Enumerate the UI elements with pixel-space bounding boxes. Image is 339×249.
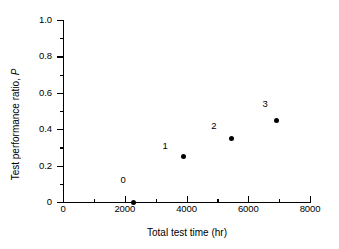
x-axis-title: Total test time (hr) (63, 227, 311, 238)
y-tick-minor (60, 38, 64, 39)
x-tick-label: 0 (60, 204, 65, 214)
y-tick-minor (60, 184, 64, 185)
y-tick-minor (60, 75, 64, 76)
data-point-label: 2 (211, 121, 216, 131)
y-tick-major (57, 93, 63, 94)
x-tick-minor (94, 199, 95, 203)
data-point (181, 154, 186, 159)
y-tick-label: 1.0 (0, 15, 52, 25)
y-tick-major (57, 166, 63, 167)
y-axis-line (63, 20, 64, 203)
data-point-label: 3 (262, 99, 267, 109)
y-tick-label: 0.2 (0, 161, 52, 171)
x-tick-minor (279, 199, 280, 203)
y-tick-label: 0 (0, 197, 52, 207)
x-tick-major (248, 196, 249, 202)
x-tick-major (125, 196, 126, 202)
y-tick-major (57, 202, 63, 203)
data-point (274, 118, 279, 123)
y-tick-label: 0.6 (0, 88, 52, 98)
y-tick-major (57, 20, 63, 21)
y-tick-major (57, 129, 63, 130)
data-point (131, 200, 136, 205)
x-tick-major (310, 196, 311, 202)
y-tick-label: 0.8 (0, 51, 52, 61)
data-point (229, 136, 234, 141)
y-tick-minor (60, 111, 64, 112)
y-axis-title-text: Test performance ratio, (10, 75, 21, 180)
x-tick-label: 6000 (238, 204, 259, 214)
y-axis-title: Test performance ratio, P (10, 0, 24, 249)
x-tick-label: 4000 (176, 204, 197, 214)
y-tick-major (57, 56, 63, 57)
x-tick-minor (217, 199, 218, 203)
data-point-label: 0 (120, 175, 125, 185)
x-tick-minor (156, 199, 157, 203)
x-tick-label: 2000 (114, 204, 135, 214)
chart-figure: 02000400060008000 00.20.40.60.81.0 0123 … (0, 0, 339, 249)
x-tick-major (63, 196, 64, 202)
y-tick-minor (60, 147, 64, 148)
x-tick-major (187, 196, 188, 202)
x-tick-label: 8000 (300, 204, 321, 214)
data-point-label: 1 (162, 141, 167, 151)
y-axis-title-symbol: P (10, 69, 21, 76)
y-tick-label: 0.4 (0, 124, 52, 134)
